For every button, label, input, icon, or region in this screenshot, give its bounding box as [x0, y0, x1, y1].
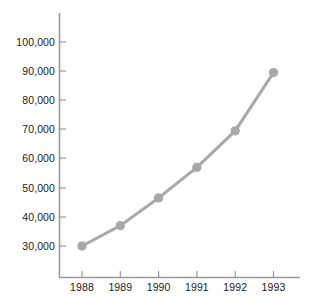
- y-axis-label-60000: 60,000: [22, 152, 55, 164]
- x-axis-ticks: [82, 271, 274, 278]
- y-axis-label-50000: 50,000: [22, 182, 55, 194]
- data-point-1989: [116, 222, 124, 230]
- y-axis-ticks: [60, 42, 67, 246]
- x-axis-label-1989: 1989: [108, 281, 132, 293]
- y-axis-label-100000: 100,000: [16, 36, 55, 48]
- data-point-1993: [269, 69, 277, 77]
- series-line: [82, 73, 274, 246]
- x-axis-label-1993: 1993: [262, 281, 286, 293]
- y-axis-label-80000: 80,000: [22, 94, 55, 106]
- data-point-1992: [231, 127, 239, 135]
- line-chart: 100,000 90,000 80,000 70,000 60,000 50,0…: [0, 0, 325, 307]
- x-axis-label-1988: 1988: [70, 281, 94, 293]
- y-axis-label-40000: 40,000: [22, 211, 55, 223]
- data-point-1990: [155, 194, 163, 202]
- data-point-1991: [193, 163, 201, 171]
- data-point-1988: [78, 242, 86, 250]
- chart-container: 100,000 90,000 80,000 70,000 60,000 50,0…: [0, 0, 325, 307]
- series-markers: [78, 69, 278, 251]
- y-axis-label-30000: 30,000: [22, 240, 55, 252]
- x-axis-label-1992: 1992: [223, 281, 247, 293]
- y-axis-labels: 100,000 90,000 80,000 70,000 60,000 50,0…: [16, 36, 55, 252]
- x-axis-labels: 1988 1989 1990 1991 1992 1993: [70, 281, 285, 293]
- x-axis-label-1991: 1991: [185, 281, 209, 293]
- y-axis-label-70000: 70,000: [22, 123, 55, 135]
- x-axis-label-1990: 1990: [147, 281, 171, 293]
- y-axis-label-90000: 90,000: [22, 65, 55, 77]
